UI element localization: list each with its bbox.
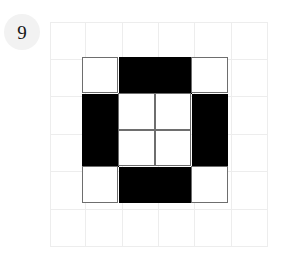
puzzle-figure <box>50 22 268 247</box>
background-grid-cell <box>50 97 86 135</box>
pattern-cell-empty <box>191 166 228 203</box>
background-grid-cell <box>195 22 231 60</box>
background-grid-cell <box>232 22 268 60</box>
item-index-label: 9 <box>17 23 27 42</box>
background-grid-cell <box>86 22 122 60</box>
pattern-cell-filled <box>119 167 156 204</box>
pattern-cell-empty <box>82 57 119 94</box>
pattern-cell-filled <box>82 130 119 167</box>
pattern-cell-empty <box>191 57 228 94</box>
background-grid-cell <box>159 22 195 60</box>
background-grid-cell <box>159 210 195 248</box>
pattern-cell-filled <box>192 94 229 131</box>
background-grid-cell <box>86 210 122 248</box>
pattern-cell-filled <box>192 130 229 167</box>
background-grid-cell <box>232 210 268 248</box>
background-grid-cell <box>50 22 86 60</box>
background-grid-cell <box>50 210 86 248</box>
background-grid-cell <box>232 97 268 135</box>
background-grid-cell <box>195 210 231 248</box>
pattern-cell-empty <box>118 93 155 130</box>
pattern-cell-empty <box>82 166 119 203</box>
pattern-cell-filled <box>119 57 156 94</box>
pattern-cell-filled <box>155 167 192 204</box>
background-grid-cell <box>123 22 159 60</box>
background-grid-cell <box>232 60 268 98</box>
item-index-badge: 9 <box>4 14 40 50</box>
background-grid-cell <box>232 135 268 173</box>
pattern-grid <box>82 57 228 203</box>
pattern-cell-filled <box>82 94 119 131</box>
pattern-cell-empty <box>155 93 192 130</box>
pattern-cell-empty <box>118 130 155 167</box>
background-grid-cell <box>232 172 268 210</box>
background-grid-cell <box>123 210 159 248</box>
pattern-cell-empty <box>155 130 192 167</box>
pattern-cell-filled <box>155 57 192 94</box>
